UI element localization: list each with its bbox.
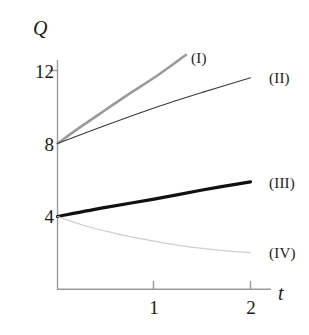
y-tick-label-8: 8 [14,135,54,154]
curve-label-iii: (III) [269,176,295,191]
x-tick-label-2: 2 [236,298,266,317]
chart-figure: Q t 12 8 4 1 2 (I) (II) (III) (IV) [0,0,309,335]
y-tick-label-4: 4 [14,207,54,226]
plot-area [0,0,309,335]
x-axis-label: t [278,283,284,303]
curve-iii [58,182,251,217]
curve-i [58,55,186,144]
x-tick-label-1: 1 [139,298,169,317]
y-tick-label-12: 12 [14,62,54,81]
y-axis-label: Q [33,18,47,38]
curve-label-i: (I) [191,51,207,66]
curve-label-iv: (IV) [269,246,296,261]
curve-label-ii: (II) [269,71,290,86]
curve-iv [58,217,251,253]
curve-ii [58,78,251,144]
